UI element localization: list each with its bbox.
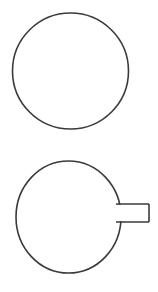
canvas-background [0, 0, 158, 292]
diagram-canvas [0, 0, 158, 292]
handle-tab-inner-mask [116, 205, 149, 221]
shape-diagram [0, 0, 158, 292]
